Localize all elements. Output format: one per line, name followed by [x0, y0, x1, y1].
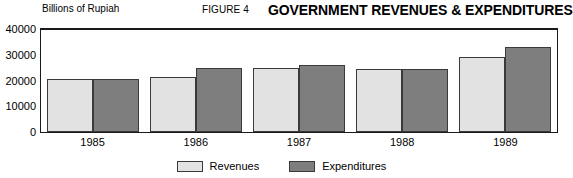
bars-layer: [41, 29, 557, 132]
y-axis-tick-label: 30000: [5, 49, 36, 60]
bar-expenditures-1986: [196, 68, 242, 132]
bar-group: [150, 29, 242, 132]
x-axis-tick-label: 1985: [80, 136, 104, 149]
legend-swatch-revenues: [177, 161, 203, 172]
bar-revenues-1989: [459, 57, 505, 132]
legend-swatch-expenditures: [289, 161, 315, 172]
bar-expenditures-1985: [93, 79, 139, 132]
x-axis-tick-label: 1987: [287, 136, 311, 149]
y-axis-tick-label: 40000: [5, 24, 36, 35]
x-axis: 19851986198719881989: [41, 136, 557, 152]
bar-group: [253, 29, 345, 132]
y-axis-tick-label: 0: [30, 127, 36, 138]
bar-group: [47, 29, 139, 132]
bar-revenues-1986: [150, 77, 196, 132]
legend-item: Expenditures: [289, 160, 386, 172]
legend-item: Revenues: [177, 160, 260, 172]
bar-expenditures-1988: [402, 69, 448, 132]
legend-label: Expenditures: [322, 160, 386, 172]
y-axis: 010000200003000040000: [0, 28, 36, 133]
bar-revenues-1987: [253, 68, 299, 132]
bar-expenditures-1987: [299, 65, 345, 132]
legend-label: Revenues: [210, 160, 260, 172]
plot-area: 010000200003000040000: [0, 0, 563, 145]
chart-legend: RevenuesExpenditures: [0, 157, 563, 175]
y-axis-tick-label: 20000: [5, 75, 36, 86]
bar-revenues-1985: [47, 79, 93, 132]
bar-group: [356, 29, 448, 132]
bar-revenues-1988: [356, 69, 402, 132]
x-axis-tick-label: 1988: [390, 136, 414, 149]
y-axis-tick-label: 10000: [5, 101, 36, 112]
x-axis-tick-label: 1986: [184, 136, 208, 149]
x-axis-tick-label: 1989: [493, 136, 517, 149]
bar-expenditures-1989: [505, 47, 551, 132]
bar-group: [459, 29, 551, 132]
